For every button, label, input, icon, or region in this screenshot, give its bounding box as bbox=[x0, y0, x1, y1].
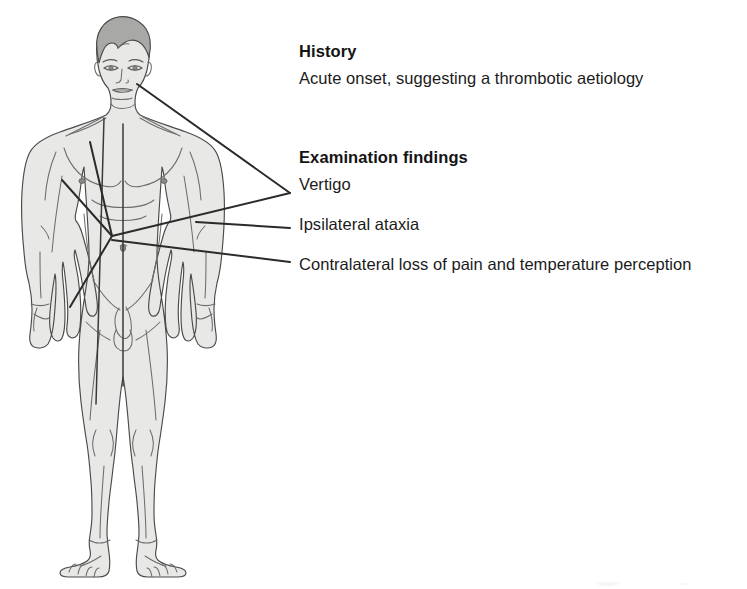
examination-heading: Examination findings bbox=[299, 146, 729, 168]
finding-vertigo: Vertigo bbox=[299, 173, 729, 195]
history-heading: History bbox=[299, 40, 729, 62]
finding-contralateral-loss: Contralateral loss of pain and temperatu… bbox=[299, 253, 729, 275]
clinical-figure-page: .sk { fill:#e8e8e6; stroke:#4a4a4a; stro… bbox=[0, 0, 747, 589]
scan-artifact bbox=[600, 584, 614, 586]
finding-ipsilateral-ataxia: Ipsilateral ataxia bbox=[299, 213, 729, 235]
annotation-text-block: History Acute onset, suggesting a thromb… bbox=[299, 40, 729, 276]
history-section: History Acute onset, suggesting a thromb… bbox=[299, 40, 729, 90]
examination-section: Examination findings Vertigo Ipsilateral… bbox=[299, 146, 729, 276]
history-line: Acute onset, suggesting a thrombotic aet… bbox=[299, 67, 729, 89]
scan-artifact bbox=[679, 583, 689, 585]
